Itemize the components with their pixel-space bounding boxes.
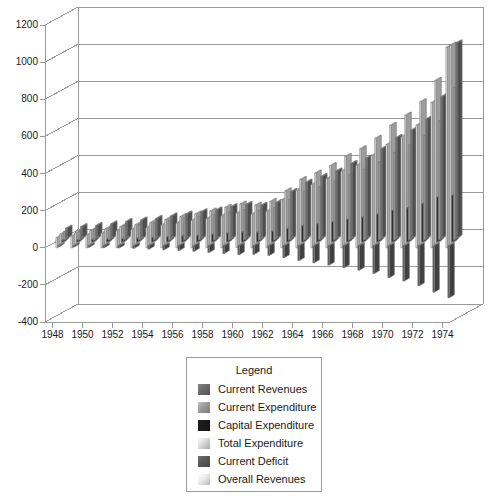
x-axis-tick-label: 1974 — [423, 330, 463, 340]
y-axis-tick-label: 400 — [2, 169, 38, 179]
bars-layer — [56, 40, 462, 298]
bar — [283, 243, 290, 258]
y-axis-tick-label: 1000 — [2, 57, 38, 67]
legend-item: Current Revenues — [187, 380, 321, 398]
bar — [388, 243, 395, 278]
legend: Legend Current RevenuesCurrent Expenditu… — [186, 357, 322, 492]
legend-title: Legend — [187, 363, 321, 377]
bar — [343, 243, 350, 268]
legend-label: Total Expenditure — [218, 437, 303, 449]
legend-items: Current RevenuesCurrent ExpenditureCapit… — [187, 380, 321, 488]
bar — [403, 243, 410, 281]
legend-label: Current Revenues — [218, 383, 307, 395]
y-axis-tick-label: 0 — [2, 243, 38, 253]
bar — [418, 243, 425, 286]
bar — [358, 243, 365, 271]
bar-chart-3d: 120010008006004002000-200-400 1948195019… — [0, 0, 498, 503]
plot-area: 120010008006004002000-200-400 1948195019… — [0, 0, 498, 345]
legend-swatch — [198, 438, 210, 449]
legend-item: Capital Expenditure — [187, 416, 321, 434]
y-axis-tick-label: -200 — [2, 280, 38, 290]
legend-swatch — [198, 384, 210, 395]
y-axis-tick-label: 1200 — [2, 20, 38, 30]
legend-item: Overall Revenues — [187, 470, 321, 488]
legend-swatch — [198, 402, 210, 413]
bar — [373, 243, 380, 274]
legend-label: Current Expenditure — [218, 401, 316, 413]
y-axis-tick-label: 200 — [2, 206, 38, 216]
legend-swatch — [198, 474, 210, 485]
y-axis-tick-label: 600 — [2, 131, 38, 141]
plot-canvas — [0, 0, 498, 345]
legend-label: Overall Revenues — [218, 473, 305, 485]
legend-item: Current Expenditure — [187, 398, 321, 416]
legend-label: Capital Expenditure — [218, 419, 314, 431]
legend-swatch — [198, 420, 210, 431]
bar — [433, 243, 440, 292]
bar — [456, 40, 463, 238]
legend-label: Current Deficit — [218, 455, 288, 467]
bar — [313, 243, 320, 263]
bar — [298, 243, 305, 261]
legend-item: Current Deficit — [187, 452, 321, 470]
y-axis-tick-label: 800 — [2, 94, 38, 104]
y-axis-tick-label: -400 — [2, 317, 38, 327]
bar — [448, 243, 455, 298]
legend-item: Total Expenditure — [187, 434, 321, 452]
legend-swatch — [198, 456, 210, 467]
bar — [328, 243, 335, 265]
